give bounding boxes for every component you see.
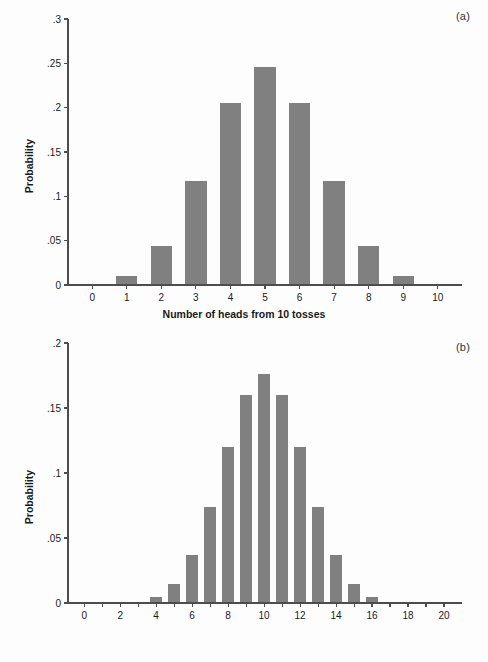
bar: [366, 597, 379, 603]
bar: [358, 246, 379, 285]
y-axis-tick-label: .1: [53, 468, 62, 479]
x-axis-tick-label: 9: [400, 292, 406, 303]
panel-b-y-axis-label: Probability: [23, 469, 35, 523]
x-axis-tick-label: 2: [159, 292, 165, 303]
y-axis-tick-label: .05: [47, 235, 61, 246]
bar: [185, 181, 206, 285]
bar: [254, 67, 275, 285]
bar: [222, 447, 235, 603]
x-axis-tick-label: 16: [366, 610, 378, 621]
y-axis-tick-label: 0: [55, 280, 61, 291]
bar: [276, 395, 289, 603]
x-axis-tick-label: 1: [124, 292, 130, 303]
bar: [312, 507, 325, 603]
bar: [258, 374, 271, 603]
panel-a: (a) Probability 0.05.1.15.2.25.301234567…: [0, 0, 488, 331]
panel-a-x-axis-label: Number of heads from 10 tosses: [0, 308, 488, 320]
bar: [220, 103, 241, 285]
y-axis-tick-label: .3: [53, 14, 62, 25]
x-axis-tick-label: 18: [402, 610, 414, 621]
bar: [151, 246, 172, 285]
bar: [240, 395, 253, 603]
x-axis-tick-label: 10: [259, 610, 271, 621]
x-axis-tick-label: 4: [153, 610, 159, 621]
y-axis-tick-label: .2: [53, 338, 62, 349]
bar: [116, 276, 137, 285]
x-axis-tick-label: 20: [438, 610, 450, 621]
x-axis-tick-label: 6: [189, 610, 195, 621]
bar: [289, 103, 310, 285]
x-axis-tick-label: 0: [89, 292, 95, 303]
panel-a-tag: (a): [456, 10, 470, 22]
bar: [348, 584, 361, 603]
y-axis-tick-label: .25: [47, 58, 61, 69]
panel-a-plot: 0.05.1.15.2.25.3012345678910: [0, 0, 488, 331]
x-axis-tick-label: 10: [432, 292, 444, 303]
x-axis-tick-label: 3: [193, 292, 199, 303]
binomial-distribution-figure: (a) Probability 0.05.1.15.2.25.301234567…: [0, 0, 488, 662]
y-axis-tick-label: .15: [47, 147, 61, 158]
bar: [204, 507, 217, 603]
panel-a-y-axis-label: Probability: [23, 138, 35, 192]
x-axis-tick-label: 8: [366, 292, 372, 303]
y-axis-tick-label: .15: [47, 403, 61, 414]
y-axis-tick-label: .2: [53, 102, 62, 113]
x-axis-tick-label: 5: [262, 292, 268, 303]
bar: [186, 555, 199, 603]
x-axis-tick-label: 4: [228, 292, 234, 303]
x-axis-tick-label: 14: [331, 610, 343, 621]
y-axis-tick-label: .05: [47, 533, 61, 544]
bar: [393, 276, 414, 285]
y-axis-tick-label: .1: [53, 191, 62, 202]
panel-b: (b) Probability 0.05.1.15.20246810121416…: [0, 331, 488, 662]
x-axis-tick-label: 2: [117, 610, 123, 621]
bar: [168, 584, 181, 603]
x-axis-tick-label: 12: [295, 610, 307, 621]
bar: [150, 597, 163, 603]
panel-b-tag: (b): [456, 341, 470, 353]
x-axis-tick-label: 8: [225, 610, 231, 621]
panel-b-plot: 0.05.1.15.202468101214161820: [0, 331, 488, 662]
x-axis-tick-label: 7: [331, 292, 337, 303]
bar: [330, 555, 343, 603]
x-axis-tick-label: 6: [297, 292, 303, 303]
y-axis-tick-label: 0: [55, 598, 61, 609]
bar: [294, 447, 307, 603]
x-axis-tick-label: 0: [81, 610, 87, 621]
bar: [323, 181, 344, 285]
